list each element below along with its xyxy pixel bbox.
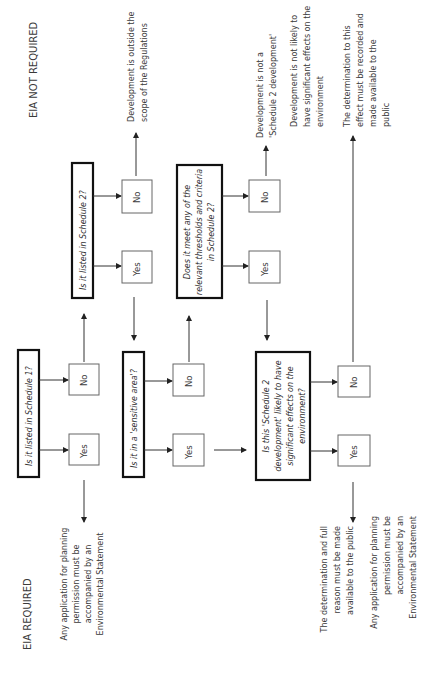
svg-text:environment: environment — [316, 76, 325, 127]
svg-text:Yes: Yes — [132, 262, 142, 277]
outcome-application-es-1: Any application for planning permission … — [60, 528, 105, 641]
svg-text:No: No — [184, 375, 194, 387]
svg-text:Is this 'Schedule 2: Is this 'Schedule 2 — [262, 380, 271, 453]
svg-text:in Schedule 2?: in Schedule 2? — [207, 202, 216, 261]
svg-text:Is it in a 'sensitive area'?: Is it in a 'sensitive area'? — [130, 368, 139, 468]
svg-text:have significant effects on th: have significant effects on the — [303, 6, 312, 127]
outcome-not-schedule-2: Development is not a 'Schedule 2 develop… — [256, 34, 278, 138]
svg-text:Development is not a: Development is not a — [256, 52, 265, 138]
svg-text:Is it listed in Schedule 2?: Is it listed in Schedule 2? — [79, 190, 88, 290]
outcome-application-es-2: Any application for planning permission … — [370, 516, 418, 629]
svg-text:Development is outside the: Development is outside the — [127, 11, 136, 122]
significant-yes: Yes — [338, 435, 370, 466]
svg-text:environment?: environment? — [298, 388, 307, 444]
svg-text:Yes: Yes — [79, 444, 89, 459]
heading-eia-required: EIA REQUIRED — [22, 578, 33, 650]
thresholds-yes: Yes — [249, 251, 280, 283]
svg-text:permission must be: permission must be — [72, 544, 81, 623]
svg-text:Any application for planning: Any application for planning — [60, 528, 69, 641]
svg-text:No: No — [260, 191, 270, 203]
svg-text:made available to the: made available to the — [369, 39, 378, 127]
svg-text:reason must be made: reason must be made — [333, 526, 342, 614]
svg-text:Development is not likely to: Development is not likely to — [290, 15, 299, 127]
schedule-2-no: No — [122, 180, 152, 213]
svg-text:relevant thresholds and criter: relevant thresholds and criteria — [195, 169, 204, 295]
svg-text:permission must be: permission must be — [383, 516, 392, 595]
svg-text:Yes: Yes — [184, 445, 194, 460]
schedule-2-yes: Yes — [122, 251, 152, 283]
svg-text:scope of the Regulations: scope of the Regulations — [140, 23, 149, 122]
sensitive-yes: Yes — [173, 434, 204, 466]
svg-text:Does it meet any of the: Does it meet any of the — [183, 185, 192, 280]
sensitive-no: No — [173, 364, 204, 396]
svg-text:accompanied by an: accompanied by an — [84, 545, 93, 624]
svg-text:No: No — [349, 376, 359, 388]
schedule-1-yes: Yes — [69, 434, 99, 465]
svg-text:No: No — [79, 374, 89, 386]
question-significant-effects: Is this 'Schedule 2 development' likely … — [256, 352, 310, 480]
svg-text:No: No — [132, 191, 142, 203]
svg-text:'Schedule 2 development': 'Schedule 2 development' — [269, 34, 278, 138]
svg-text:The determination and full: The determination and full — [320, 526, 329, 633]
schedule-1-no: No — [69, 364, 99, 395]
svg-text:effect must be recorded and: effect must be recorded and — [356, 13, 365, 127]
question-schedule-1: Is it listed in Schedule 1? — [18, 350, 39, 477]
significant-no: No — [338, 366, 370, 397]
question-thresholds: Does it meet any of the relevant thresho… — [177, 165, 222, 298]
question-schedule-2: Is it listed in Schedule 2? — [72, 163, 93, 298]
question-sensitive-area: Is it in a 'sensitive area'? — [123, 352, 144, 477]
svg-text:The determination to this: The determination to this — [343, 25, 352, 128]
svg-text:Is it listed in Schedule 1?: Is it listed in Schedule 1? — [25, 366, 34, 466]
svg-text:accompanied by an: accompanied by an — [396, 516, 405, 595]
outcome-outside-scope: Development is outside the scope of the … — [127, 11, 149, 122]
outcome-not-likely: Development is not likely to have signif… — [290, 6, 325, 127]
svg-text:available to the public: available to the public — [346, 526, 355, 615]
thresholds-no: No — [249, 180, 280, 212]
svg-text:Yes: Yes — [260, 262, 270, 277]
svg-text:public: public — [382, 103, 391, 127]
heading-eia-not-required: EIA NOT REQUIRED — [28, 21, 39, 118]
svg-text:significant effects on the: significant effects on the — [286, 366, 295, 466]
outcome-determination-effect: The determination to this effect must be… — [343, 13, 391, 128]
svg-text:Any application for planning: Any application for planning — [370, 516, 379, 629]
eia-flowchart: EIA NOT REQUIRED EIA REQUIRED Is it list… — [0, 0, 448, 689]
outcome-determination-full: The determination and full reason must b… — [320, 526, 355, 634]
svg-text:Environmental Statement: Environmental Statement — [96, 533, 105, 636]
svg-text:Yes: Yes — [349, 445, 359, 460]
svg-text:development' likely to have: development' likely to have — [274, 360, 283, 471]
svg-text:Environmental Statement: Environmental Statement — [409, 516, 418, 619]
